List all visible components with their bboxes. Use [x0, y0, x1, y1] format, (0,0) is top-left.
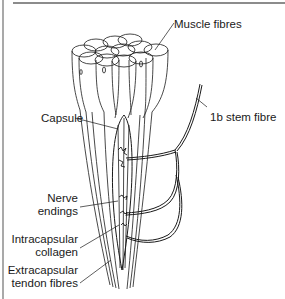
label-extracapsular-tendon-line2: tendon fibres [12, 277, 79, 290]
muscle-fibre-bodies [72, 50, 168, 118]
capsule-outline [112, 115, 132, 270]
label-intracapsular-line1: Intracapsular [12, 233, 78, 246]
label-capsule: Capsule [41, 112, 83, 125]
muscle-fibre-ends [72, 34, 168, 67]
intracapsular-collagen [118, 118, 129, 270]
tendon-fibres [80, 110, 152, 289]
label-intracapsular-collagen-line2: collagen [35, 246, 78, 259]
label-muscle-fibres: Muscle fibres [174, 18, 242, 31]
label-1b-stem-fibre: 1b stem fibre [210, 111, 276, 124]
label-extracapsular-line1: Extracapsular [8, 264, 78, 277]
label-nerve-endings-line2: endings [38, 205, 78, 218]
label-nerve-line1: Nerve [47, 192, 78, 205]
leader-lines [75, 23, 207, 283]
